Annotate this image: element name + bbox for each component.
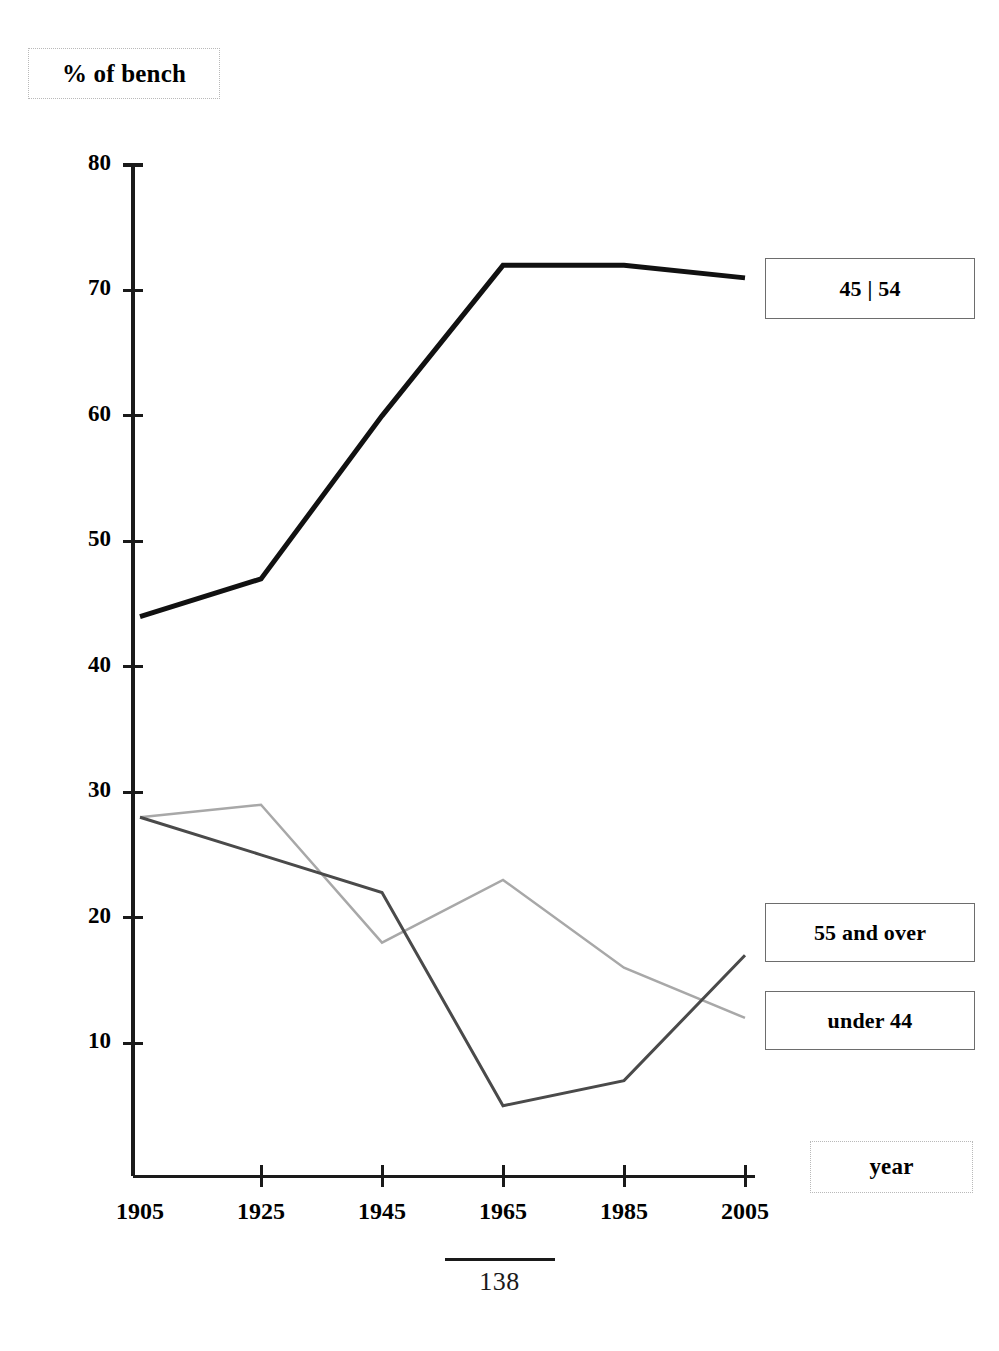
y-axis-tick-label: 50 [59, 526, 111, 552]
legend-item-45-54: 45 | 54 [765, 258, 975, 319]
y-axis-tick-label: 10 [59, 1028, 111, 1054]
series-line-45-54 [140, 265, 745, 616]
y-axis-tick-label: 70 [59, 275, 111, 301]
legend-item-under-44: under 44 [765, 991, 975, 1050]
chart-axes [123, 165, 755, 1187]
y-axis-tick-label: 30 [59, 777, 111, 803]
series-line-under-44 [140, 817, 745, 1105]
y-axis-tick-label: 40 [59, 652, 111, 678]
x-axis-tick-label: 1965 [458, 1198, 548, 1225]
y-axis-tick-label: 80 [59, 150, 111, 176]
chart-page: % of bench 8070605040302010 190519251945… [0, 0, 999, 1351]
x-axis-tick-label: 1905 [95, 1198, 185, 1225]
y-axis-tick-label: 20 [59, 903, 111, 929]
series-line-55-and-over [140, 805, 745, 1018]
legend-item-55-and-over: 55 and over [765, 903, 975, 962]
x-axis-tick-label: 1985 [579, 1198, 669, 1225]
x-axis-label: year [810, 1141, 973, 1193]
x-axis-tick-label: 1925 [216, 1198, 306, 1225]
page-footer: 138 [0, 1258, 999, 1297]
page-number: 138 [0, 1267, 999, 1297]
y-axis-tick-label: 60 [59, 401, 111, 427]
x-axis-tick-label: 1945 [337, 1198, 427, 1225]
chart-series [140, 265, 745, 1105]
x-axis-tick-label: 2005 [700, 1198, 790, 1225]
footer-rule [445, 1258, 555, 1261]
line-chart-plot [0, 0, 999, 1260]
